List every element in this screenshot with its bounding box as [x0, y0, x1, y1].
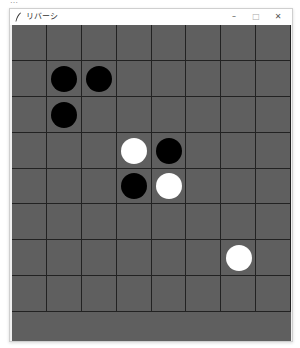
board-cell[interactable] [12, 25, 47, 61]
board-cell[interactable] [221, 61, 256, 97]
board-cell[interactable] [152, 276, 187, 312]
reversi-window: リバーシ – □ ✕ [9, 8, 293, 342]
board-cell[interactable] [152, 61, 187, 97]
board-cell[interactable] [186, 61, 221, 97]
board-cell[interactable] [221, 169, 256, 205]
board-cell[interactable] [117, 204, 152, 240]
window-title: リバーシ [26, 11, 58, 23]
close-button[interactable]: ✕ [268, 9, 288, 25]
board-cell[interactable] [47, 133, 82, 169]
board-cell[interactable] [186, 97, 221, 133]
black-disc [51, 102, 77, 128]
board-cell[interactable] [82, 97, 117, 133]
board-cell[interactable] [47, 240, 82, 276]
board-cell[interactable] [47, 204, 82, 240]
board-cell[interactable] [221, 204, 256, 240]
title-bar[interactable]: リバーシ – □ ✕ [10, 9, 292, 25]
board-cell[interactable] [82, 25, 117, 61]
board-cell[interactable] [152, 204, 187, 240]
board-cell[interactable] [12, 204, 47, 240]
board-cell[interactable] [186, 25, 221, 61]
board-cell[interactable] [12, 97, 47, 133]
board-cell[interactable] [12, 61, 47, 97]
board-cell[interactable] [256, 240, 291, 276]
board-cell[interactable] [256, 25, 291, 61]
game-board[interactable] [12, 25, 291, 341]
board-cell[interactable] [152, 97, 187, 133]
board-cell[interactable] [117, 61, 152, 97]
board-cell[interactable] [82, 276, 117, 312]
board-cell[interactable] [221, 276, 256, 312]
cropped-text: … [10, 0, 18, 5]
board-grid[interactable] [12, 25, 291, 312]
board-cell[interactable] [47, 276, 82, 312]
board-cell[interactable] [82, 133, 117, 169]
cropped-background-strip: … [0, 0, 300, 8]
board-cell[interactable] [82, 240, 117, 276]
board-cell[interactable] [117, 97, 152, 133]
board-cell[interactable] [256, 169, 291, 205]
board-cell[interactable] [256, 97, 291, 133]
board-cell[interactable] [186, 240, 221, 276]
black-disc [86, 66, 112, 92]
board-cell[interactable] [12, 276, 47, 312]
board-cell[interactable] [12, 240, 47, 276]
white-disc [121, 138, 147, 164]
board-cell[interactable] [256, 61, 291, 97]
board-cell[interactable] [117, 25, 152, 61]
board-cell[interactable] [186, 204, 221, 240]
maximize-button[interactable]: □ [246, 9, 266, 25]
board-cell[interactable] [82, 204, 117, 240]
board-cell[interactable] [152, 240, 187, 276]
board-cell[interactable] [12, 169, 47, 205]
minimize-button[interactable]: – [224, 9, 244, 25]
board-cell[interactable] [256, 133, 291, 169]
board-cell[interactable] [186, 133, 221, 169]
board-cell[interactable] [221, 25, 256, 61]
board-cell[interactable] [256, 276, 291, 312]
board-cell[interactable] [221, 133, 256, 169]
board-cell[interactable] [256, 204, 291, 240]
white-disc [226, 245, 252, 271]
board-cell[interactable] [186, 276, 221, 312]
board-cell[interactable] [117, 276, 152, 312]
board-cell[interactable] [47, 25, 82, 61]
black-disc [156, 138, 182, 164]
board-cell[interactable] [82, 169, 117, 205]
board-cell[interactable] [152, 25, 187, 61]
black-disc [51, 66, 77, 92]
board-cell[interactable] [221, 97, 256, 133]
board-cell[interactable] [186, 169, 221, 205]
board-cell[interactable] [12, 133, 47, 169]
feather-icon [14, 12, 22, 22]
board-cell[interactable] [117, 240, 152, 276]
board-cell[interactable] [47, 169, 82, 205]
